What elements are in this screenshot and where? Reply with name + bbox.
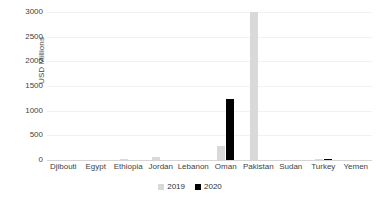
bar-group <box>340 12 373 160</box>
legend-item-2019[interactable]: 2019 <box>158 182 185 191</box>
y-axis-tick-label: 1500 <box>0 82 43 90</box>
axis-zero-line <box>47 160 372 161</box>
figure-caption <box>6 200 374 209</box>
x-axis-tick-labels: DjiboutiEgyptEthiopiaJordanLebanonOmanPa… <box>47 163 372 177</box>
x-axis-tick-label: Oman <box>210 163 243 172</box>
y-axis-tick-label: 3000 <box>0 8 43 16</box>
bar-group <box>47 12 80 160</box>
bar-oman-2020 <box>226 99 234 160</box>
bar-group <box>275 12 308 160</box>
y-axis-tick-label: 2000 <box>0 57 43 65</box>
x-axis-tick-label: Pakistan <box>242 163 275 172</box>
x-axis-tick-label: Turkey <box>307 163 340 172</box>
bar-group <box>242 12 275 160</box>
bar-pakistan-2019 <box>250 12 258 160</box>
bar-group <box>145 12 178 160</box>
y-axis-tick-label: 2500 <box>0 33 43 41</box>
bar-group <box>112 12 145 160</box>
bar-ethiopia-2019 <box>120 159 128 160</box>
y-axis-tick-label: 1000 <box>0 107 43 115</box>
bar-group <box>210 12 243 160</box>
legend-swatch-icon <box>158 184 164 190</box>
bar-turkey-2019 <box>315 159 323 160</box>
x-axis-tick-label: Yemen <box>340 163 373 172</box>
legend-item-2020[interactable]: 2020 <box>195 182 222 191</box>
bar-jordan-2019 <box>152 157 160 160</box>
bar-oman-2019 <box>217 146 225 160</box>
x-axis-tick-label: Egypt <box>80 163 113 172</box>
x-axis-tick-label: Ethiopia <box>112 163 145 172</box>
chart-legend: 20192020 <box>0 182 380 191</box>
bar-group <box>177 12 210 160</box>
y-axis-tick-label: 0 <box>0 156 43 164</box>
bar-group <box>80 12 113 160</box>
legend-swatch-icon <box>195 184 201 190</box>
plot-area <box>47 12 372 160</box>
x-axis-tick-label: Lebanon <box>177 163 210 172</box>
bar-group <box>307 12 340 160</box>
x-axis-tick-label: Jordan <box>145 163 178 172</box>
y-axis-tick-labels: 050010001500200025003000 <box>0 12 43 160</box>
legend-label: 2019 <box>167 182 185 191</box>
bar-chart: USD Millions 050010001500200025003000 Dj… <box>0 0 380 210</box>
x-axis-tick-label: Sudan <box>275 163 308 172</box>
x-axis-tick-label: Djibouti <box>47 163 80 172</box>
legend-label: 2020 <box>204 182 222 191</box>
y-axis-tick-label: 500 <box>0 131 43 139</box>
bar-turkey-2020 <box>324 159 332 160</box>
